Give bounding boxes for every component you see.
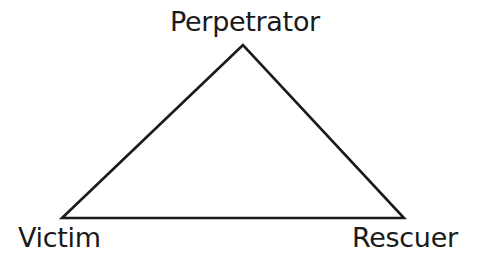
triangle-outline xyxy=(62,45,404,218)
vertex-label-perpetrator: Perpetrator xyxy=(170,8,320,35)
drama-triangle-diagram: Perpetrator Victim Rescuer xyxy=(0,0,477,265)
vertex-label-rescuer: Rescuer xyxy=(352,224,458,251)
vertex-label-victim: Victim xyxy=(18,224,101,251)
